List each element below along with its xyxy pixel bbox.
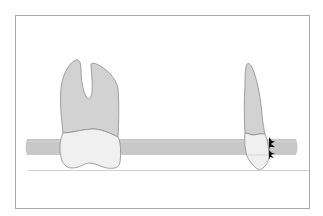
- two-root-crown: [60, 129, 121, 168]
- dental-diagram: [0, 0, 323, 216]
- diagram-canvas: [0, 0, 323, 216]
- frame: [16, 16, 310, 209]
